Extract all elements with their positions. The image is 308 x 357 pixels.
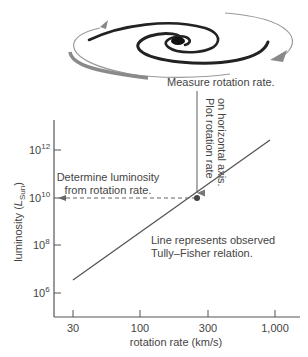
svg-text:Plot rotation rate: Plot rotation rate	[204, 98, 216, 179]
determine-luminosity-label: Determine luminosity	[57, 171, 160, 183]
tully-fisher-diagram: Measure rotation rate. Plot rotation rat…	[0, 0, 308, 357]
measure-rotation-label: Measure rotation rate.	[167, 76, 275, 88]
rotation-arrowhead-icon	[100, 20, 108, 29]
svg-text:1010: 1010	[29, 190, 51, 204]
svg-text:106: 106	[33, 285, 50, 299]
svg-text:1,000: 1,000	[261, 322, 289, 334]
determine-luminosity-label-2: from rotation rate.	[65, 184, 152, 196]
y-ticks: 1012 1010 108 106	[29, 142, 61, 299]
rotation-arrowhead-icon	[270, 50, 287, 62]
x-ticks: 30 100 300 1,000	[67, 310, 289, 334]
svg-text:30: 30	[67, 322, 79, 334]
svg-text:100: 100	[131, 322, 149, 334]
plot-rotation-label: Plot rotation rate on horizontal axis.	[204, 98, 228, 187]
measured-point	[194, 195, 200, 201]
svg-text:300: 300	[199, 322, 217, 334]
spiral-galaxy-icon	[70, 13, 292, 78]
svg-text:108: 108	[33, 237, 50, 251]
svg-text:luminosity (LSun): luminosity (LSun)	[12, 182, 27, 262]
relation-label: Line represents observed	[151, 234, 275, 246]
svg-text:1012: 1012	[29, 142, 51, 156]
relation-label-2: Tully–Fisher relation.	[151, 247, 253, 259]
x-axis-label: rotation rate (km/s)	[130, 336, 222, 348]
tully-fisher-line	[73, 140, 270, 280]
y-axis-label: luminosity (LSun)	[12, 182, 27, 262]
